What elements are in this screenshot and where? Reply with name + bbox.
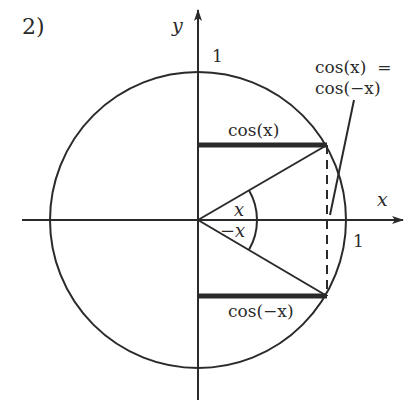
unit-circle-diagram: 2) y x 1 1 x −x cos(x) cos(−x) cos(x) = … <box>0 0 412 409</box>
cos-neg-x-label: cos(−x) <box>228 301 294 321</box>
annotation-leader-line <box>330 100 354 215</box>
x-axis-label: x <box>377 188 388 210</box>
x-tick-label: 1 <box>353 231 364 251</box>
annotation-line2: cos(−x) <box>315 78 381 98</box>
angle-label-neg-x: −x <box>220 220 245 241</box>
angle-label-x: x <box>234 199 244 220</box>
y-tick-label: 1 <box>212 46 223 66</box>
cos-x-label: cos(x) <box>228 120 279 140</box>
radius-upper <box>198 145 327 220</box>
y-axis-label: y <box>171 14 183 36</box>
radius-lower <box>198 220 327 296</box>
figure-number: 2) <box>22 14 45 39</box>
annotation-line1: cos(x) = <box>315 57 391 77</box>
